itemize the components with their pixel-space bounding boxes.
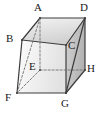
vertex-point-f xyxy=(16,92,18,94)
vertex-label-d: D xyxy=(80,2,88,13)
vertex-point-d xyxy=(84,17,86,19)
vertex-point-h xyxy=(84,69,86,71)
vertex-label-a: A xyxy=(34,2,42,13)
vertex-label-e: E xyxy=(29,61,36,72)
vertex-point-b xyxy=(21,39,23,41)
vertex-point-c xyxy=(65,44,67,46)
vertex-label-f: F xyxy=(5,92,11,103)
vertex-point-a xyxy=(39,17,41,19)
geometry-figure: ABCDEFGH xyxy=(0,0,104,113)
vertex-point-g xyxy=(65,92,67,94)
cube-diagram xyxy=(0,0,104,113)
vertex-label-b: B xyxy=(6,33,13,44)
vertex-label-c: C xyxy=(68,40,75,51)
vertex-point-e xyxy=(39,69,41,71)
vertex-label-g: G xyxy=(61,98,69,109)
vertex-label-h: H xyxy=(87,63,95,74)
